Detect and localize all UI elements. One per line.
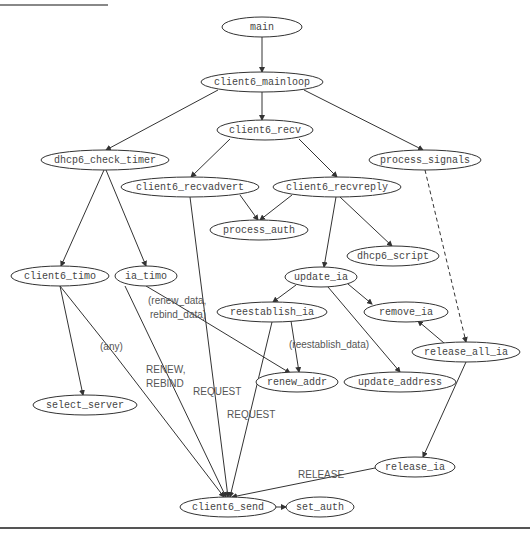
node-dhcp6_check_timer[interactable]: dhcp6_check_timer xyxy=(41,150,169,170)
edge-label: (any) xyxy=(100,341,123,352)
node-main[interactable]: main xyxy=(222,17,302,37)
node-label: process_auth xyxy=(223,225,295,236)
edge-release_all_ia-to-remove_ia xyxy=(418,321,444,343)
node-label: set_auth xyxy=(296,502,344,513)
edge-client6_mainloop-to-dhcp6_check_timer xyxy=(106,90,218,150)
call-graph-diagram: (renew_data,rebind_data)(reestablish_dat… xyxy=(0,0,530,536)
node-label: update_address xyxy=(358,377,442,388)
node-dhcp6_script[interactable]: dhcp6_script xyxy=(347,246,439,266)
node-set_auth[interactable]: set_auth xyxy=(286,497,354,517)
node-client6_recvadvert[interactable]: client6_recvadvert xyxy=(121,177,259,197)
node-label: client6_recvadvert xyxy=(136,182,244,193)
edge-client6_mainloop-to-process_signals xyxy=(304,90,423,150)
edge-client6_recvreply-to-dhcp6_script xyxy=(340,197,392,246)
node-client6_recv[interactable]: client6_recv xyxy=(217,120,313,140)
node-select_server[interactable]: select_server xyxy=(33,395,137,415)
node-process_signals[interactable]: process_signals xyxy=(369,150,481,170)
edge-label: rebind_data) xyxy=(150,309,206,320)
edge-client6_recvreply-to-process_auth xyxy=(260,195,292,220)
edge-label: (renew_data, xyxy=(148,295,206,306)
edge-label: REBIND xyxy=(146,378,184,389)
edge-client6_recv-to-client6_recvreply xyxy=(299,139,337,177)
edge-update_ia-to-reestablish_ia xyxy=(273,285,296,302)
node-label: release_all_ia xyxy=(424,347,508,358)
node-update_address[interactable]: update_address xyxy=(344,372,456,392)
node-release_all_ia[interactable]: release_all_ia xyxy=(412,342,520,362)
edge-label: RENEW, xyxy=(146,364,185,375)
node-client6_recvreply[interactable]: client6_recvreply xyxy=(273,177,401,197)
node-release_ia[interactable]: release_ia xyxy=(375,457,455,477)
node-renew_addr[interactable]: renew_addr xyxy=(256,372,338,392)
node-label: process_signals xyxy=(380,155,470,166)
node-client6_timo[interactable]: client6_timo xyxy=(11,266,109,286)
node-label: dhcp6_check_timer xyxy=(54,155,156,166)
node-label: dhcp6_script xyxy=(357,251,429,262)
footer-rule xyxy=(0,527,530,529)
node-reestablish_ia[interactable]: reestablish_ia xyxy=(217,302,327,322)
edge-label: REQUEST xyxy=(193,386,241,397)
node-label: reestablish_ia xyxy=(230,307,314,318)
node-label: client6_mainloop xyxy=(214,77,310,88)
edge-dhcp6_check_timer-to-client6_timo xyxy=(61,170,104,266)
node-label: renew_addr xyxy=(267,377,327,388)
edge-client6_timo-to-select_server xyxy=(60,286,83,395)
edge-client6_recvreply-to-update_ia xyxy=(324,197,336,267)
node-process_auth[interactable]: process_auth xyxy=(210,220,308,240)
edge-label: RELEASE xyxy=(298,469,344,480)
edge-label: (reestablish_data) xyxy=(289,339,369,350)
node-label: client6_recv xyxy=(229,125,301,136)
edge-update_ia-to-remove_ia xyxy=(348,284,372,304)
edge-client6_recvadvert-to-client6_send xyxy=(190,197,228,497)
edge-label: REQUEST xyxy=(227,409,275,420)
edge-update_ia-to-update_address xyxy=(328,287,400,372)
node-label: main xyxy=(250,22,274,33)
node-label: release_ia xyxy=(385,462,445,473)
node-label: select_server xyxy=(46,400,124,411)
node-label: client6_recvreply xyxy=(286,182,388,193)
node-label: remove_ia xyxy=(379,307,433,318)
node-update_ia[interactable]: update_ia xyxy=(285,267,357,287)
nodes-layer: mainclient6_mainloopclient6_recvdhcp6_ch… xyxy=(11,17,520,517)
edge-client6_recv-to-client6_recvadvert xyxy=(191,139,230,177)
node-label: client6_timo xyxy=(24,271,96,282)
node-label: ia_timo xyxy=(125,271,167,282)
node-remove_ia[interactable]: remove_ia xyxy=(364,302,448,322)
node-client6_send[interactable]: client6_send xyxy=(180,497,276,517)
node-client6_mainloop[interactable]: client6_mainloop xyxy=(201,72,323,92)
node-label: client6_send xyxy=(192,502,264,513)
node-label: update_ia xyxy=(294,272,348,283)
edge-client6_recvadvert-to-process_auth xyxy=(240,195,258,220)
node-ia_timo[interactable]: ia_timo xyxy=(115,266,177,286)
